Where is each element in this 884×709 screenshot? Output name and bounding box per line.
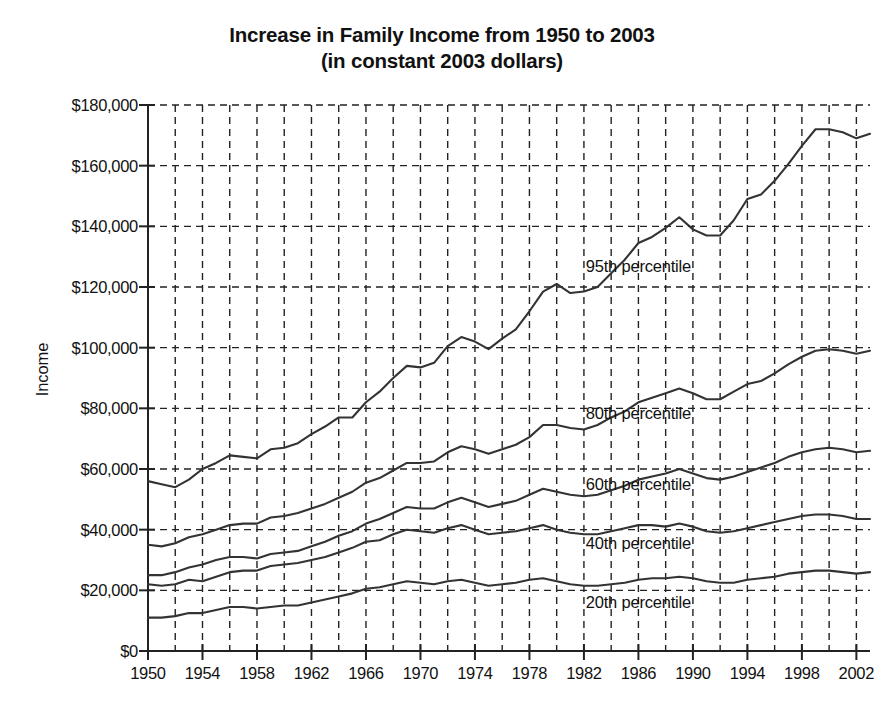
series-label-1: 95th percentile: [586, 256, 691, 275]
x-tick-label: 2002: [821, 664, 884, 683]
series-label-5: 20th percentile: [586, 593, 691, 612]
series-label-2: 80th percentile: [586, 403, 691, 422]
chart-page: Increase in Family Income from 1950 to 2…: [0, 0, 884, 709]
plot-area: [148, 105, 870, 651]
chart-canvas: [148, 105, 870, 651]
series-label-3: 60th percentile: [586, 475, 691, 494]
series-label-4: 40th percentile: [586, 534, 691, 553]
